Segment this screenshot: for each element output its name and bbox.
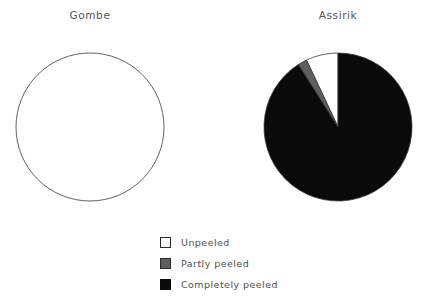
legend-label-unpeeled: Unpeeled xyxy=(181,237,230,248)
pie-gombe-svg xyxy=(14,51,166,203)
legend-item-unpeeled: Unpeeled xyxy=(160,232,340,252)
pie-chart-gombe xyxy=(14,51,166,203)
legend-item-partly-peeled: Partly peeled xyxy=(160,253,340,273)
pie-slice-completely-peeled xyxy=(264,53,412,201)
legend-label-partly-peeled: Partly peeled xyxy=(181,258,249,269)
legend-swatch-partly-peeled xyxy=(160,258,171,269)
legend: Unpeeled Partly peeled Completely peeled xyxy=(160,232,340,295)
legend-item-completely-peeled: Completely peeled xyxy=(160,274,340,294)
legend-swatch-unpeeled xyxy=(160,237,171,248)
legend-label-completely-peeled: Completely peeled xyxy=(181,279,278,290)
pie-assirik-svg xyxy=(262,51,414,203)
panel-title-gombe: Gombe xyxy=(0,9,180,21)
pie-chart-assirik xyxy=(262,51,414,203)
pie-chart-figure: Gombe Assirik Unpeeled Partly peeled Com… xyxy=(0,0,422,300)
pie-slice-unpeeled xyxy=(16,53,164,201)
panel-title-assirik: Assirik xyxy=(248,9,422,21)
legend-swatch-completely-peeled xyxy=(160,279,171,290)
